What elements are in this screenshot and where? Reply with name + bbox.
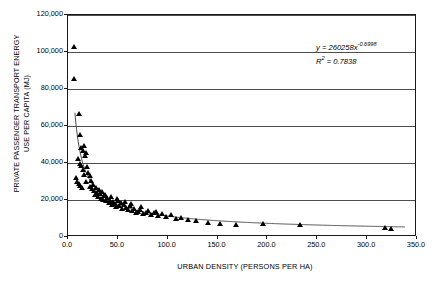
- data-point: [138, 204, 144, 209]
- data-point: [81, 143, 87, 148]
- x-tick-label: 350.0: [396, 240, 436, 249]
- x-tick-mark: [67, 236, 68, 239]
- x-tick-label: 50.0: [97, 240, 137, 249]
- regression-annotation: y = 260258x-0.6998 R2 = 0.7838: [316, 39, 377, 66]
- data-point: [76, 111, 82, 116]
- data-point: [87, 173, 93, 178]
- x-tick-mark: [117, 236, 118, 239]
- data-point: [185, 217, 191, 222]
- x-tick-label: 150.0: [197, 240, 237, 249]
- y-tick-label: 20,000: [17, 194, 63, 203]
- data-point: [84, 164, 90, 169]
- y-tick-label: 60,000: [17, 120, 63, 129]
- x-tick-mark: [316, 236, 317, 239]
- x-tick-label: 250.0: [296, 240, 336, 249]
- data-point: [71, 76, 77, 81]
- equation-exponent: -0.6998: [358, 41, 377, 47]
- y-tick-label: 80,000: [17, 83, 63, 92]
- data-point: [79, 185, 85, 190]
- y-tick-label: 100,000: [17, 46, 63, 55]
- y-tick-label: 120,000: [17, 9, 63, 18]
- y-tick-label: 40,000: [17, 157, 63, 166]
- data-point: [71, 44, 77, 49]
- gridline: [68, 15, 415, 16]
- data-point: [233, 222, 239, 227]
- x-tick-mark: [266, 236, 267, 239]
- x-axis-title: URBAN DENSITY (PERSONS PER HA): [60, 262, 430, 271]
- equation-text: y = 260258x: [316, 43, 358, 52]
- x-tick-mark: [416, 236, 417, 239]
- chart-container: PRIVATE PASSENGER TRANSPORT ENERGY USE P…: [0, 0, 439, 281]
- r-squared-value: = 0.7838: [325, 56, 357, 65]
- x-tick-mark: [167, 236, 168, 239]
- data-point: [77, 132, 83, 137]
- x-tick-label: 300.0: [346, 240, 386, 249]
- gridline: [68, 126, 415, 127]
- plot-area: y = 260258x-0.6998 R2 = 0.7838: [67, 14, 416, 236]
- data-point: [388, 226, 394, 231]
- data-point: [193, 218, 199, 223]
- x-tick-label: 0.0: [47, 240, 87, 249]
- y-axis-title-line1: PRIVATE PASSENGER TRANSPORT ENERGY: [12, 35, 21, 193]
- data-point: [205, 220, 211, 225]
- data-point: [217, 221, 223, 226]
- data-point: [178, 215, 184, 220]
- data-point: [153, 209, 159, 214]
- y-tick-label: 0: [17, 231, 63, 240]
- r-squared: R2 = 0.7838: [316, 53, 377, 67]
- x-tick-label: 200.0: [246, 240, 286, 249]
- x-tick-label: 100.0: [147, 240, 187, 249]
- data-point: [128, 201, 134, 206]
- gridline: [68, 89, 415, 90]
- data-point: [297, 222, 303, 227]
- gridline: [68, 163, 415, 164]
- data-point: [83, 150, 89, 155]
- x-tick-mark: [366, 236, 367, 239]
- y-axis-title: PRIVATE PASSENGER TRANSPORT ENERGY USE P…: [12, 14, 31, 214]
- regression-equation: y = 260258x-0.6998: [316, 39, 377, 53]
- x-tick-mark: [217, 236, 218, 239]
- data-point: [114, 196, 120, 201]
- data-point: [260, 221, 266, 226]
